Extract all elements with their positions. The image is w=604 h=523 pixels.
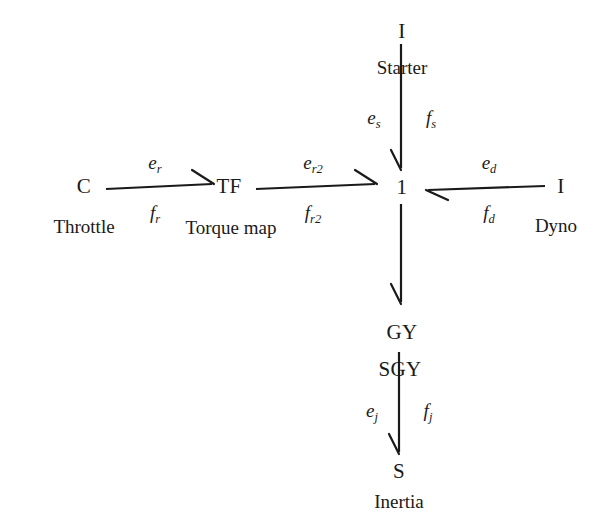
node-torque-map[interactable]: TF: [216, 174, 241, 199]
bond-lines-layer: [0, 0, 604, 523]
node-throttle[interactable]: C: [77, 174, 91, 199]
node-starter-caption: Starter: [377, 57, 428, 79]
node-throttle-caption: Throttle: [53, 216, 114, 238]
node-torque-map-caption: Torque map: [185, 217, 276, 239]
node-inertia[interactable]: S: [393, 459, 405, 484]
node-one-junction[interactable]: 1: [397, 175, 408, 200]
bond-label-effort-er2: er2: [303, 152, 323, 174]
node-dyno[interactable]: I: [557, 174, 564, 199]
bond-label-effort-er: er: [148, 152, 161, 174]
node-sgy[interactable]: SGY: [379, 357, 422, 382]
node-gy[interactable]: GY: [387, 320, 418, 345]
bond-label-flow-fj: fj: [424, 400, 433, 422]
bond-line-dyno: [426, 186, 545, 200]
bond-label-flow-fr: fr: [150, 202, 160, 224]
node-starter[interactable]: I: [398, 19, 405, 44]
node-dyno-caption: Dyno: [535, 215, 577, 237]
node-inertia-caption: Inertia: [374, 491, 424, 513]
bond-graph-diagram: I Starter C Throttle TF Torque map 1 I D…: [0, 0, 604, 523]
bond-line-junction-gy: [391, 204, 401, 304]
bond-label-effort-ed: ed: [482, 152, 497, 174]
bond-label-flow-fs: fs: [426, 107, 436, 129]
bond-label-flow-fr2: fr2: [305, 202, 321, 224]
bond-label-effort-es: es: [367, 107, 380, 129]
bond-label-flow-fd: fd: [483, 202, 495, 224]
bond-label-effort-ej: ej: [366, 400, 378, 422]
